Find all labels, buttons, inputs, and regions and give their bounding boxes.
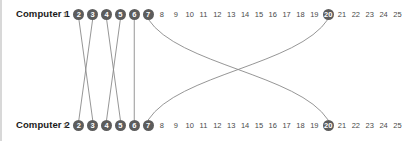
port-node-computer-2-16[interactable]: 16 — [267, 120, 278, 131]
port-node-computer-1-12[interactable]: 12 — [212, 9, 223, 20]
port-node-computer-1-10[interactable]: 10 — [184, 9, 195, 20]
port-node-computer-1-3[interactable]: 3 — [87, 9, 98, 20]
port-node-computer-2-12[interactable]: 12 — [212, 120, 223, 131]
port-node-computer-2-24[interactable]: 24 — [378, 120, 389, 131]
port-node-computer-2-8[interactable]: 8 — [156, 120, 167, 131]
port-node-computer-1-17[interactable]: 17 — [281, 9, 292, 20]
port-node-computer-1-15[interactable]: 15 — [253, 9, 264, 20]
port-node-computer-2-4[interactable]: 4 — [101, 120, 112, 131]
port-node-computer-1-5[interactable]: 5 — [115, 9, 126, 20]
port-node-computer-2-11[interactable]: 11 — [198, 120, 209, 131]
port-node-computer-1-25[interactable]: 25 — [392, 9, 403, 20]
port-node-computer-2-14[interactable]: 14 — [240, 120, 251, 131]
port-node-computer-2-1[interactable]: 1 — [60, 120, 71, 131]
port-node-computer-1-16[interactable]: 16 — [267, 9, 278, 20]
port-node-computer-1-22[interactable]: 22 — [350, 9, 361, 20]
port-node-computer-1-24[interactable]: 24 — [378, 9, 389, 20]
port-node-computer-2-10[interactable]: 10 — [184, 120, 195, 131]
port-node-computer-1-1[interactable]: 1 — [60, 9, 71, 20]
port-node-computer-1-20[interactable]: 20 — [323, 9, 334, 20]
port-node-computer-1-14[interactable]: 14 — [240, 9, 251, 20]
port-node-computer-2-3[interactable]: 3 — [87, 120, 98, 131]
port-node-computer-2-18[interactable]: 18 — [295, 120, 306, 131]
port-node-computer-1-6[interactable]: 6 — [129, 9, 140, 20]
port-node-computer-1-19[interactable]: 19 — [309, 9, 320, 20]
port-node-computer-1-18[interactable]: 18 — [295, 9, 306, 20]
port-node-computer-2-5[interactable]: 5 — [115, 120, 126, 131]
port-node-computer-1-23[interactable]: 23 — [364, 9, 375, 20]
port-node-computer-2-19[interactable]: 19 — [309, 120, 320, 131]
port-node-computer-2-22[interactable]: 22 — [350, 120, 361, 131]
port-node-computer-2-17[interactable]: 17 — [281, 120, 292, 131]
port-node-computer-1-21[interactable]: 21 — [337, 9, 348, 20]
port-node-computer-2-13[interactable]: 13 — [226, 120, 237, 131]
port-node-computer-2-6[interactable]: 6 — [129, 120, 140, 131]
port-node-computer-1-8[interactable]: 8 — [156, 9, 167, 20]
port-node-computer-2-15[interactable]: 15 — [253, 120, 264, 131]
port-node-computer-1-7[interactable]: 7 — [143, 9, 154, 20]
port-node-computer-1-2[interactable]: 2 — [73, 9, 84, 20]
diagram-canvas: Computer 1 Computer 2 123456789101112131… — [0, 0, 410, 141]
port-node-computer-2-9[interactable]: 9 — [170, 120, 181, 131]
port-node-computer-2-20[interactable]: 20 — [323, 120, 334, 131]
port-node-computer-2-25[interactable]: 25 — [392, 120, 403, 131]
port-node-computer-1-4[interactable]: 4 — [101, 9, 112, 20]
port-node-computer-1-9[interactable]: 9 — [170, 9, 181, 20]
port-node-computer-2-23[interactable]: 23 — [364, 120, 375, 131]
edge-20-to-7 — [148, 19, 328, 120]
port-node-computer-2-21[interactable]: 21 — [337, 120, 348, 131]
port-node-computer-2-2[interactable]: 2 — [73, 120, 84, 131]
port-node-computer-1-13[interactable]: 13 — [226, 9, 237, 20]
port-node-computer-1-11[interactable]: 11 — [198, 9, 209, 20]
port-node-computer-2-7[interactable]: 7 — [143, 120, 154, 131]
